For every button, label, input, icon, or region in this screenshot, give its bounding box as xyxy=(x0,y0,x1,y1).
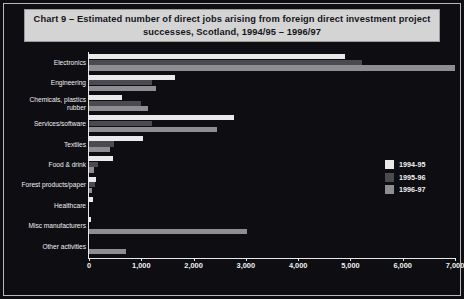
bar-row xyxy=(89,229,455,234)
bar xyxy=(89,106,148,111)
bar xyxy=(89,86,156,91)
bar-row xyxy=(89,106,455,111)
x-axis-tick xyxy=(455,258,456,261)
x-axis-tick xyxy=(298,258,299,261)
bar-row xyxy=(89,223,455,228)
category-label: Textiles xyxy=(4,141,86,148)
bar xyxy=(89,65,455,70)
x-axis-tick xyxy=(89,258,90,261)
chart-figure: Chart 9 – Estimated number of direct job… xyxy=(0,0,464,299)
x-axis-tick xyxy=(403,258,404,261)
bar-row xyxy=(89,95,455,100)
bar-group xyxy=(89,54,455,74)
bar-row xyxy=(89,54,455,59)
bar-row xyxy=(89,115,455,120)
legend-swatch-icon xyxy=(385,160,394,169)
category-label: Forest products/paper xyxy=(4,181,86,188)
bar xyxy=(89,167,94,172)
chart-legend: 1994-951995-961996-97 xyxy=(385,160,425,198)
bar-row xyxy=(89,203,455,208)
bar xyxy=(89,249,126,254)
bar-group xyxy=(89,238,455,258)
bar-row xyxy=(89,249,455,254)
x-axis-tick-label: 6,000 xyxy=(393,261,412,270)
x-axis-tick-label: 5,000 xyxy=(341,261,360,270)
bar-row xyxy=(89,238,455,243)
legend-label: 1994-95 xyxy=(399,160,425,169)
bar-row xyxy=(89,243,455,248)
bar-row xyxy=(89,208,455,213)
bar xyxy=(89,101,141,106)
chart-title-banner: Chart 9 – Estimated number of direct job… xyxy=(24,9,440,42)
x-axis-tick-label: 4,000 xyxy=(289,261,308,270)
bar xyxy=(89,115,234,120)
bar xyxy=(89,121,152,126)
bar xyxy=(89,197,93,202)
plot-area xyxy=(89,53,455,257)
legend-item: 1996-97 xyxy=(385,185,425,194)
bar xyxy=(89,95,122,100)
bar xyxy=(89,147,110,152)
bar xyxy=(89,75,175,80)
x-axis-tick xyxy=(194,258,195,261)
x-axis-tick-label: 2,000 xyxy=(184,261,203,270)
category-label: Chemicals, plastics rubber xyxy=(4,96,86,111)
x-axis-tick-label: 0 xyxy=(87,261,91,270)
bar xyxy=(89,188,92,193)
bar xyxy=(89,136,143,141)
bar xyxy=(89,217,91,222)
category-label: Electronics xyxy=(4,59,86,66)
x-axis-tick-label: 1,000 xyxy=(132,261,151,270)
bar-group xyxy=(89,136,455,156)
page-title: Chart 9 – Estimated number of direct job… xyxy=(25,13,439,38)
category-label: Misc manufacturers xyxy=(4,222,86,229)
bar-row xyxy=(89,217,455,222)
bar-row xyxy=(89,197,455,202)
bar xyxy=(89,182,95,187)
bar-group xyxy=(89,197,455,217)
bar xyxy=(89,80,152,85)
bar-row xyxy=(89,80,455,85)
category-label: Engineering xyxy=(4,79,86,86)
bar-group xyxy=(89,115,455,135)
bar xyxy=(89,177,96,182)
legend-item: 1994-95 xyxy=(385,160,425,169)
bar-row xyxy=(89,136,455,141)
bar xyxy=(89,156,113,161)
x-axis-tick-label: 7,000 xyxy=(446,261,464,270)
bar-row xyxy=(89,60,455,65)
bar xyxy=(89,60,362,65)
bar xyxy=(89,141,114,146)
x-axis-tick-label: 3,000 xyxy=(237,261,256,270)
bar xyxy=(89,162,98,167)
bar-row xyxy=(89,101,455,106)
legend-swatch-icon xyxy=(385,173,394,182)
legend-label: 1996-97 xyxy=(399,185,425,194)
bar-row xyxy=(89,75,455,80)
x-axis-tick xyxy=(350,258,351,261)
bar-group xyxy=(89,75,455,95)
category-axis-labels: ElectronicsEngineeringChemicals, plastic… xyxy=(4,53,86,257)
bar-group xyxy=(89,217,455,237)
legend-item: 1995-96 xyxy=(385,173,425,182)
bar xyxy=(89,229,247,234)
bar-row xyxy=(89,86,455,91)
legend-swatch-icon xyxy=(385,185,394,194)
bar-row xyxy=(89,65,455,70)
category-label: Healthcare xyxy=(4,202,86,209)
bar-row xyxy=(89,121,455,126)
bar-row xyxy=(89,127,455,132)
bar-group xyxy=(89,95,455,115)
x-axis-tick-labels: 01,0002,0003,0004,0005,0006,0007,000 xyxy=(0,261,464,275)
x-axis-tick xyxy=(246,258,247,261)
category-label: Other activities xyxy=(4,243,86,250)
bar xyxy=(89,54,345,59)
bar-row xyxy=(89,141,455,146)
bar xyxy=(89,127,217,132)
category-label: Services/software xyxy=(4,120,86,127)
legend-label: 1995-96 xyxy=(399,173,425,182)
x-axis-tick xyxy=(141,258,142,261)
category-label: Food & drink xyxy=(4,161,86,168)
bar-row xyxy=(89,147,455,152)
